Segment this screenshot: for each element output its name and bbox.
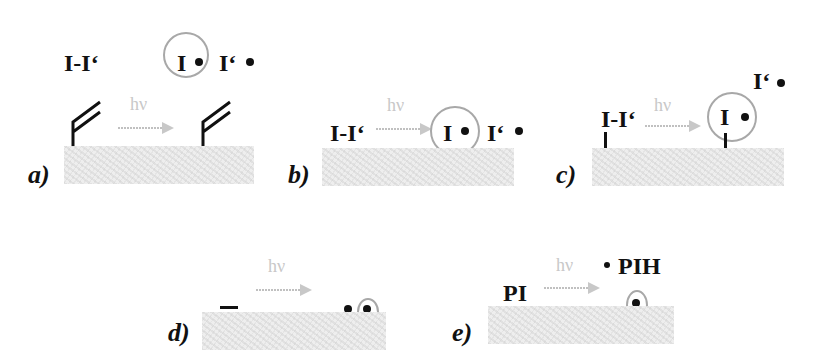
cage-circle xyxy=(707,92,757,142)
substrate-surface xyxy=(202,312,386,350)
reactant-formula: I-I‘ xyxy=(601,106,636,133)
hv-label: hν xyxy=(130,94,147,115)
panel-label: e) xyxy=(452,318,472,348)
free-radical: PIH xyxy=(618,253,661,280)
caged-radical: I xyxy=(177,50,186,77)
bound-initiator-icon xyxy=(200,98,240,148)
panel-label: a) xyxy=(28,160,50,190)
substrate-surface xyxy=(592,148,784,186)
free-radical: I‘ xyxy=(753,68,770,95)
surface-group xyxy=(220,306,238,309)
panel-label: d) xyxy=(168,318,190,348)
radical-dot xyxy=(604,262,610,268)
radical-dot xyxy=(461,127,469,135)
radical-dot xyxy=(195,58,203,66)
bound-initiator-icon xyxy=(70,98,110,148)
reactant-formula: I-I‘ xyxy=(64,50,99,77)
radical-dot xyxy=(741,113,749,121)
substrate-surface xyxy=(64,146,254,184)
radical-dot xyxy=(777,79,785,87)
reactant-formula: PI xyxy=(503,280,527,307)
hv-label: hν xyxy=(654,95,671,116)
panel-label: c) xyxy=(556,160,576,190)
caged-radical: I xyxy=(720,104,729,131)
hv-label: hν xyxy=(556,255,573,276)
arrow-icon xyxy=(118,122,178,134)
caged-radical: I xyxy=(443,120,452,147)
radical-dot xyxy=(515,127,523,135)
radical-dot xyxy=(246,58,254,66)
hv-label: hν xyxy=(268,256,285,277)
panel-label: b) xyxy=(288,160,310,190)
arrow-icon xyxy=(645,120,705,132)
free-radical: I‘ xyxy=(219,50,236,77)
substrate-surface xyxy=(322,148,514,186)
arrow-icon xyxy=(376,123,436,135)
reactant-formula: I-I‘ xyxy=(330,120,365,147)
arrow-icon xyxy=(544,282,604,294)
free-radical: I‘ xyxy=(487,120,504,147)
substrate-surface xyxy=(488,306,674,344)
hv-label: hν xyxy=(387,95,404,116)
arrow-icon xyxy=(256,284,316,296)
